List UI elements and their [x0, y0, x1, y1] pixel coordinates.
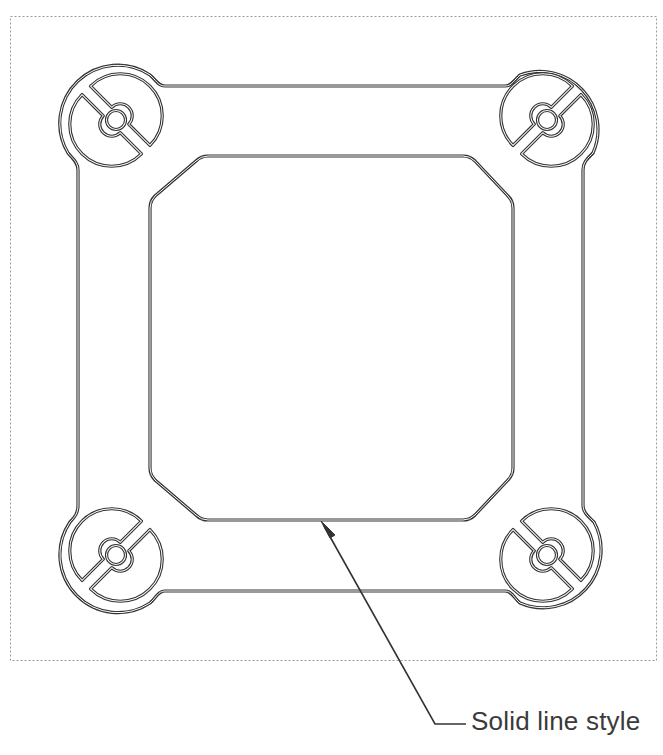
arrowhead-icon: [321, 521, 335, 538]
inner-opening: [150, 156, 513, 520]
corner-lobe-top-left: [52, 56, 179, 183]
callout-leader: [321, 521, 466, 724]
corner-lobe-bottom-left: [52, 491, 179, 618]
corner-lobe-top-right: [483, 56, 610, 183]
technical-drawing: [0, 0, 663, 755]
callout-label: Solid line style: [471, 706, 640, 737]
corner-lobe-bottom-right: [483, 491, 610, 618]
